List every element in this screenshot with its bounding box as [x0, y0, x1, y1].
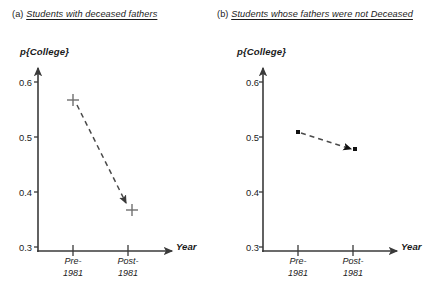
- panel-a-series-line: [77, 105, 126, 203]
- panel-a-datapoint-pre-1981: [67, 94, 79, 106]
- panel-a-plot-area: [0, 0, 215, 297]
- panel-b-datapoint-post-1981: [353, 147, 357, 151]
- panel-b: (b) Students whose fathers were not Dece…: [213, 0, 441, 297]
- panel-a: (a) Students with deceased fathers p{Col…: [0, 0, 215, 297]
- panel-a-datapoint-post-1981: [126, 204, 138, 216]
- panel-b-datapoint-pre-1981: [296, 130, 300, 134]
- panel-b-plot-area: [213, 0, 441, 297]
- figure-two-panel-chart: (a) Students with deceased fathers p{Col…: [0, 0, 441, 297]
- panel-b-series-line: [301, 133, 351, 149]
